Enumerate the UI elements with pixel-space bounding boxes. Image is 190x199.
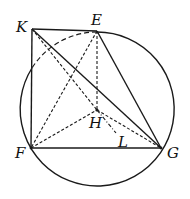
- segment-KE: [32, 29, 97, 31]
- segment-EG: [97, 31, 161, 148]
- segment-EF: [31, 31, 97, 148]
- point-G: [160, 147, 163, 150]
- segment-FH: [31, 110, 97, 148]
- label-F: F: [14, 144, 26, 162]
- segment-KF: [31, 29, 32, 148]
- label-K: K: [15, 18, 28, 36]
- point-F: [30, 147, 33, 150]
- geometry-diagram: K E H L F G: [0, 0, 190, 199]
- label-G: G: [167, 144, 179, 162]
- point-H: [95, 108, 98, 111]
- label-H: H: [88, 114, 103, 132]
- label-L: L: [117, 133, 128, 151]
- segment-KH: [32, 29, 97, 110]
- label-E: E: [90, 11, 102, 29]
